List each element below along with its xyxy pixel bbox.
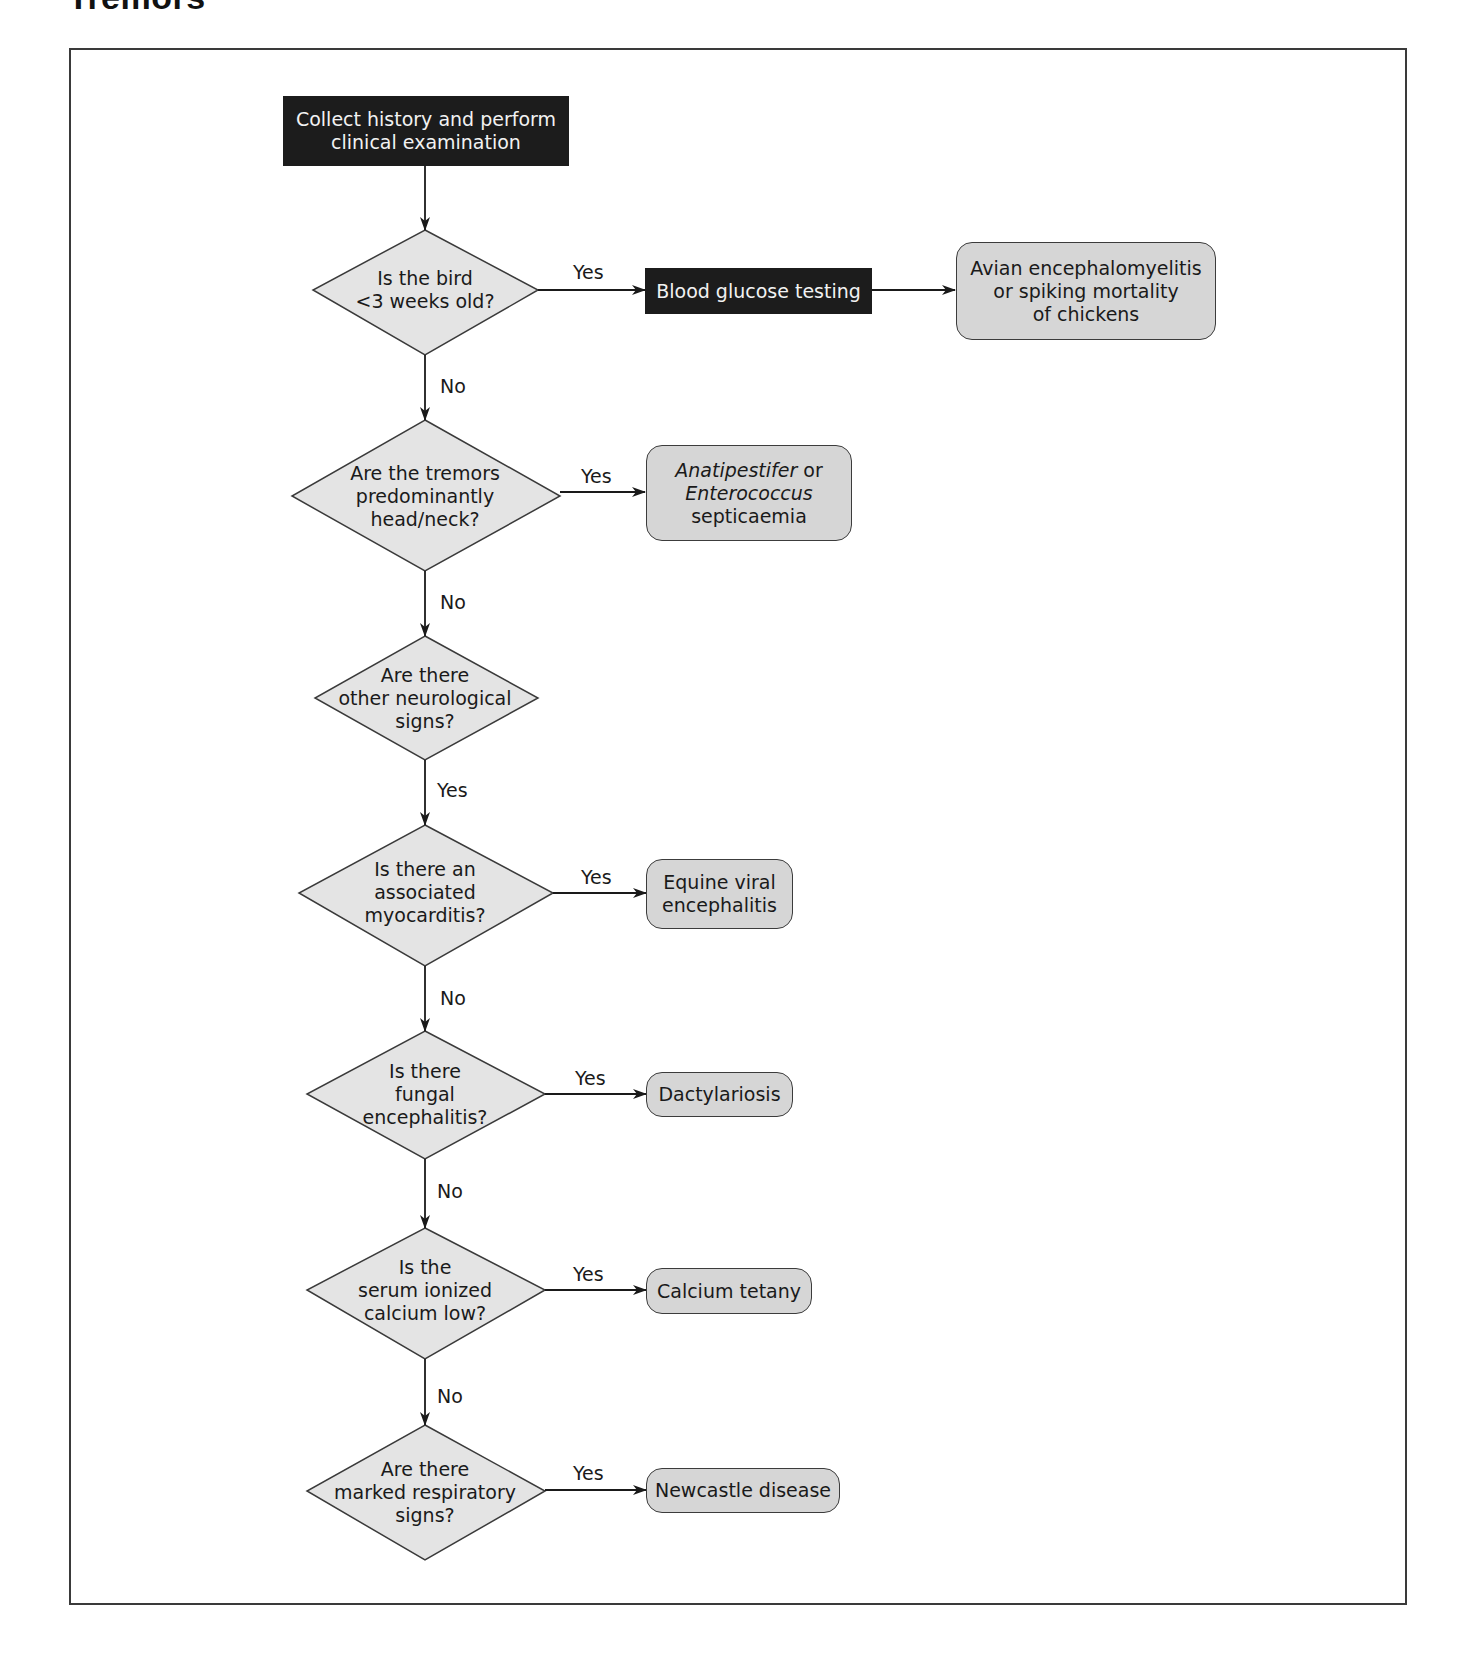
decision-q7-text: Are there marked respiratory signs? (310, 1452, 540, 1532)
result-dactylariosis: Dactylariosis (646, 1072, 793, 1117)
label-q3-yes: Yes (437, 780, 468, 800)
result-r2-line1: Anatipestifer or (675, 459, 822, 482)
decision-q5-text: Is there fungal encephalitis? (325, 1054, 525, 1134)
result-calcium-tetany: Calcium tetany (646, 1268, 812, 1314)
result-avian-encephalomyelitis: Avian encephalomyelitis or spiking morta… (956, 242, 1216, 340)
flowchart-connectors (0, 0, 1473, 1671)
label-q1-no: No (440, 376, 466, 396)
or-text: or (797, 459, 822, 481)
label-q7-yes: Yes (573, 1463, 604, 1483)
decision-q2-text: Are the tremors predominantly head/neck? (320, 456, 530, 536)
label-q5-no: No (437, 1181, 463, 1201)
label-q1-yes: Yes (573, 262, 604, 282)
label-q6-no: No (437, 1386, 463, 1406)
label-q6-yes: Yes (573, 1264, 604, 1284)
label-q2-yes: Yes (581, 466, 612, 486)
blood-glucose-box: Blood glucose testing (645, 268, 872, 314)
decision-q4-text: Is there an associated myocarditis? (325, 852, 525, 932)
label-q5-yes: Yes (575, 1068, 606, 1088)
result-equine-viral-encephalitis: Equine viral encephalitis (646, 859, 793, 929)
result-anatipestifer-enterococcus: Anatipestifer or Enterococcus septicaemi… (646, 445, 852, 541)
result-newcastle-disease: Newcastle disease (646, 1468, 840, 1513)
label-q2-no: No (440, 592, 466, 612)
anatipestifer-italic: Anatipestifer (675, 459, 797, 481)
decision-q1-text: Is the bird <3 weeks old? (330, 255, 520, 325)
label-q4-yes: Yes (581, 867, 612, 887)
septicaemia-text: septicaemia (691, 505, 807, 528)
start-box: Collect history and perform clinical exa… (283, 96, 569, 166)
enterococcus-italic: Enterococcus (685, 482, 813, 505)
label-q4-no: No (440, 988, 466, 1008)
decision-q3-text: Are there other neurological signs? (325, 658, 525, 738)
decision-q6-text: Is the serum ionized calcium low? (325, 1250, 525, 1330)
